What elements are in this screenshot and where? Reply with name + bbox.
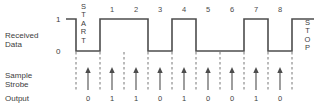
received-data-waveform [66,19,314,51]
sample-strobe-arrow-6 [229,67,234,90]
timing-diagram: Received Data Sample Strobe Output 1 0 S… [0,0,319,110]
sample-strobe-arrow-8 [277,67,282,90]
sample-strobe-arrow-5 [205,67,210,90]
sample-strobe-arrows [85,67,282,90]
sample-strobe-arrow-0 [85,67,90,90]
sample-strobe-arrow-2 [133,67,138,90]
waveform-svg [0,0,319,110]
sample-strobe-arrow-4 [181,67,186,90]
sample-strobe-arrow-1 [109,67,114,90]
sample-strobe-arrow-3 [157,67,162,90]
sample-strobe-arrow-7 [253,67,258,90]
